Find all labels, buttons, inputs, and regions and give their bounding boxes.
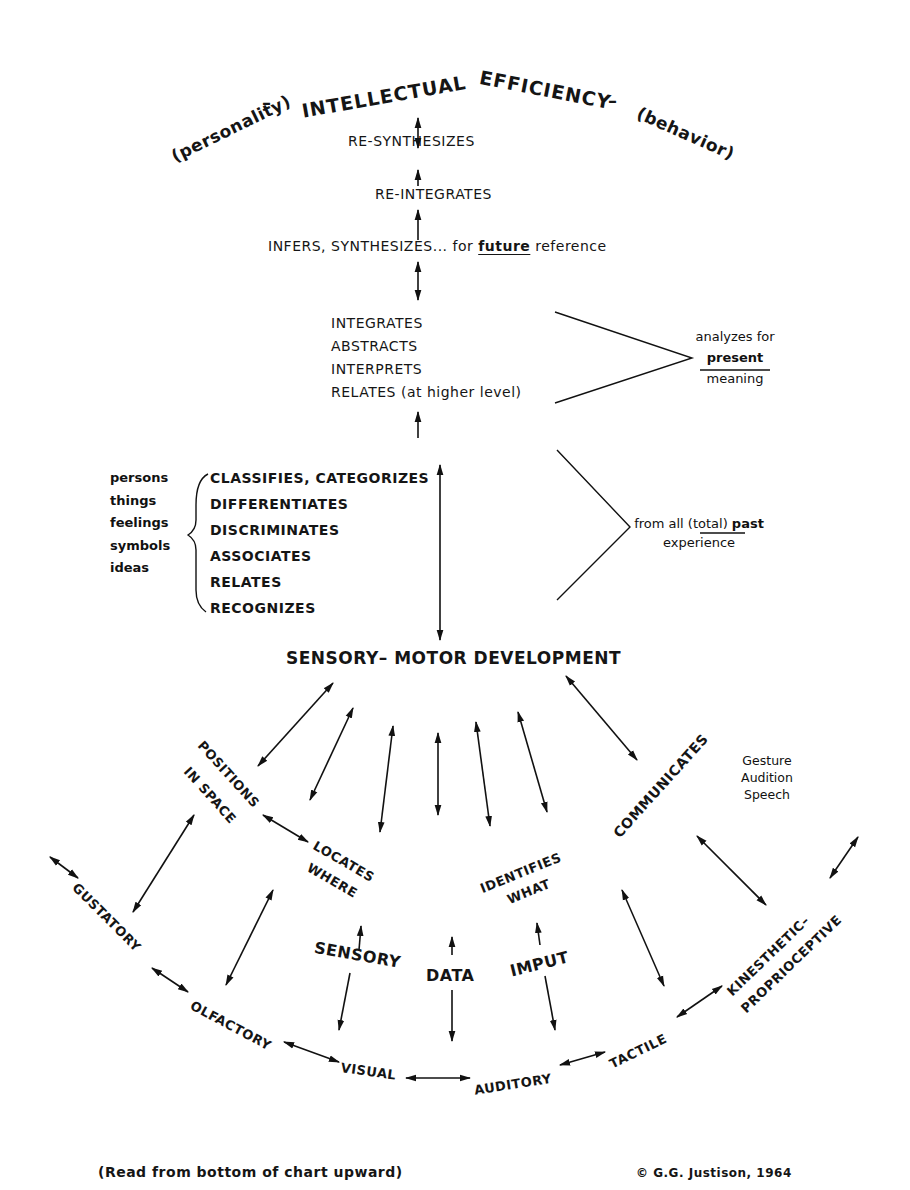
connector-lines bbox=[0, 0, 910, 1190]
footer-instruction: (Read from bottom of chart upward) bbox=[98, 1164, 403, 1180]
past-note-line1: from all (total) past bbox=[634, 514, 764, 533]
hub-sensory-motor-development: SENSORY– MOTOR DEVELOPMENT bbox=[286, 648, 621, 668]
label-data: DATA bbox=[426, 966, 474, 985]
node-resynthesizes: RE-SYNTHESIZES bbox=[348, 133, 475, 149]
past-object: persons bbox=[110, 467, 170, 490]
mode-gesture: Gesture bbox=[735, 752, 799, 769]
past-item: RECOGNIZES bbox=[210, 595, 429, 621]
past-object: ideas bbox=[110, 557, 170, 580]
present-item: INTERPRETS bbox=[331, 358, 522, 381]
infers-future: future bbox=[478, 238, 530, 254]
past-note-line2: experience bbox=[634, 533, 764, 552]
present-note-line2: present bbox=[690, 347, 780, 368]
past-note-past: past bbox=[732, 516, 764, 531]
present-item: RELATES (at higher level) bbox=[331, 381, 522, 404]
infers-for: for bbox=[453, 238, 474, 254]
past-item: ASSOCIATES bbox=[210, 543, 429, 569]
present-note-line1: analyzes for bbox=[690, 326, 780, 347]
infers-label: INFERS, SYNTHESIZES... bbox=[268, 238, 448, 254]
node-reintegrates: RE-INTEGRATES bbox=[375, 186, 492, 202]
past-item: CLASSIFIES, CATEGORIZES bbox=[210, 465, 429, 491]
past-note: from all (total) past experience bbox=[634, 514, 764, 552]
past-object: symbols bbox=[110, 535, 170, 558]
present-note-line3: meaning bbox=[690, 368, 780, 389]
past-object: things bbox=[110, 490, 170, 513]
present-group-list: INTEGRATES ABSTRACTS INTERPRETS RELATES … bbox=[331, 312, 522, 404]
past-item: DISCRIMINATES bbox=[210, 517, 429, 543]
header-dash-left: – bbox=[262, 92, 272, 113]
mode-audition: Audition bbox=[735, 769, 799, 786]
past-item: DIFFERENTIATES bbox=[210, 491, 429, 517]
mode-speech: Speech bbox=[735, 786, 799, 803]
past-group-list: CLASSIFIES, CATEGORIZES DIFFERENTIATES D… bbox=[210, 465, 429, 621]
past-note-prefix: from all (total) bbox=[634, 516, 728, 531]
infers-reference: reference bbox=[535, 238, 606, 254]
present-item: ABSTRACTS bbox=[331, 335, 522, 358]
present-note: analyzes for present meaning bbox=[690, 326, 780, 389]
communicates-modes: Gesture Audition Speech bbox=[735, 752, 799, 803]
past-object: feelings bbox=[110, 512, 170, 535]
header-dash-right: – bbox=[608, 90, 618, 111]
node-infers-synthesizes: INFERS, SYNTHESIZES... for future refere… bbox=[268, 238, 607, 254]
present-item: INTEGRATES bbox=[331, 312, 522, 335]
footer-copyright: © G.G. Justison, 1964 bbox=[636, 1166, 792, 1180]
past-objects-list: persons things feelings symbols ideas bbox=[110, 467, 170, 580]
past-item: RELATES bbox=[210, 569, 429, 595]
